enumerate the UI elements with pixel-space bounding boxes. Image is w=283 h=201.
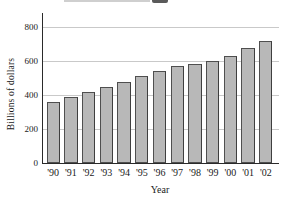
bar-95: [135, 76, 148, 163]
x-axis-line: [42, 163, 279, 164]
x-tick-label-02: '02: [254, 167, 278, 178]
bar-99: [206, 61, 219, 163]
y-tick-label-400: 400: [8, 90, 38, 100]
gridline-800: [43, 27, 279, 28]
bar-97: [171, 66, 184, 164]
bar-01: [241, 48, 254, 163]
y-axis-line: [42, 13, 43, 164]
y-tick-label-200: 200: [8, 124, 38, 134]
y-tick-label-800: 800: [8, 22, 38, 32]
bar-96: [153, 71, 166, 163]
bar-94: [117, 82, 130, 163]
y-tick-label-0: 0: [8, 158, 38, 168]
bar-02: [259, 41, 272, 163]
bar-98: [188, 64, 201, 163]
cropped-title-remnant-mark: [64, 0, 150, 2]
bar-90: [47, 102, 60, 163]
bar-91: [64, 97, 77, 163]
y-tick-label-600: 600: [8, 56, 38, 66]
bar-chart-figure: Billions of dollars 0200400600800 '90'91…: [0, 0, 283, 201]
bar-93: [100, 87, 113, 163]
x-axis-title: Year: [151, 184, 169, 195]
bar-92: [82, 92, 95, 163]
bar-00: [224, 56, 237, 163]
cropped-title-remnant-mark: [152, 0, 168, 3]
